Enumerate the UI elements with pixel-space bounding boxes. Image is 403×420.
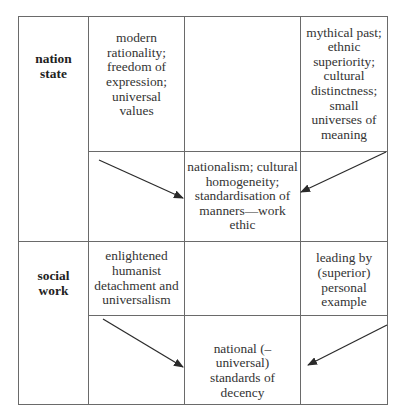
cell-social-work-top-middle — [185, 242, 300, 315]
row-label-text: nation state — [23, 52, 84, 81]
cell-text: modern rationality; freedom of expressio… — [97, 31, 176, 119]
cell-social-work-top-right: leading by (superior) personal example — [301, 242, 387, 315]
arrow-nation-state-left-to-result — [99, 160, 183, 198]
row-label-text: social work — [23, 269, 84, 298]
row-label-nation-state: nation state — [19, 17, 88, 151]
cell-nation-state-top-middle — [185, 17, 300, 151]
cell-nation-state-result: nationalism; cultural homogeneity; stand… — [185, 152, 300, 241]
arrow-social-work-right-to-result — [308, 325, 387, 365]
cell-nation-state-top-left: modern rationality; freedom of expressio… — [89, 17, 184, 151]
cell-nation-state-top-right: mythical past; ethnic superiority; cultu… — [301, 17, 387, 151]
arrow-nation-state-right-to-result — [301, 152, 386, 192]
table-border-bottom — [18, 404, 388, 405]
row-label-social-work: social work — [19, 242, 88, 404]
cell-text: mythical past; ethnic superiority; cultu… — [305, 26, 383, 143]
cell-text: nationalism; cultural homogeneity; stand… — [187, 160, 298, 233]
arrow-social-work-left-to-result — [103, 319, 183, 367]
cell-social-work-result: national (– universal) standards of dece… — [185, 316, 300, 404]
diagram-table: nation state modern rationality; freedom… — [0, 0, 403, 420]
cell-text: national (– universal) standards of dece… — [199, 342, 286, 400]
cell-text: enlightened humanist detachment and univ… — [93, 249, 180, 307]
cell-text: leading by (superior) personal example — [307, 251, 381, 309]
table-border-right — [387, 16, 388, 405]
cell-social-work-top-left: enlightened humanist detachment and univ… — [89, 242, 184, 315]
